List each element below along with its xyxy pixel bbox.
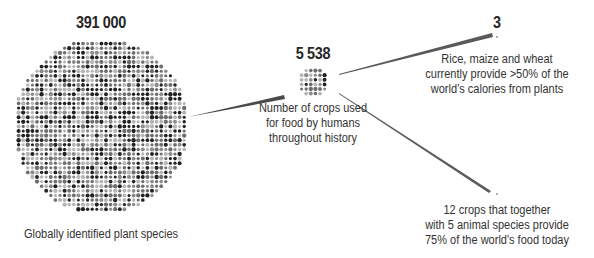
label-line: Number of crops used [251, 101, 374, 116]
plant-species-label: Globally identified plant species [17, 227, 184, 242]
crops-history-value: 5 538 [286, 45, 340, 63]
top3-value: 3 [488, 14, 506, 32]
top3-label: Rice, maize and wheat currently provide … [422, 52, 572, 97]
crops-history-label: Number of crops used for food by humans … [251, 101, 374, 146]
top12-dot [496, 193, 498, 195]
top12-label: 12 crops that together with 5 animal spe… [422, 203, 572, 248]
plant-species-dot-circle [16, 41, 186, 211]
label-line: for food by humans [251, 116, 374, 131]
plant-species-value: 391 000 [52, 14, 151, 32]
label-line: 12 crops that together [422, 203, 572, 218]
label-line: Rice, maize and wheat [422, 52, 572, 67]
label-line: 75% of the world's food today [422, 233, 572, 248]
label-line: with 5 animal species provide [422, 218, 572, 233]
crops-history-dot-circle [300, 69, 327, 96]
top3-dot [496, 36, 498, 38]
label-line: throughout history [251, 131, 374, 146]
label-line: world’s calories from plants [422, 82, 572, 97]
label-line: currently provide >50% of the [422, 67, 572, 82]
